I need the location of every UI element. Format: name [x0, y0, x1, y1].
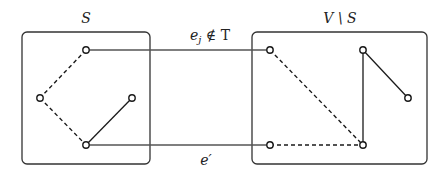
- node-s4: [83, 142, 89, 148]
- edge-label-e-prime: e′: [200, 152, 211, 168]
- diagram-canvas: S V \ S ej ∉ T e′: [0, 0, 448, 173]
- node-v1: [267, 47, 273, 53]
- node-s1: [83, 47, 89, 53]
- set-label-v-minus-s: V \ S: [323, 10, 356, 26]
- nodes-layer: [37, 47, 411, 148]
- edges-layer: [40, 50, 408, 145]
- set-label-s: S: [81, 10, 91, 26]
- node-v3: [405, 95, 411, 101]
- edge-s2-s4: [40, 98, 86, 145]
- node-v5: [360, 142, 366, 148]
- edge-s4-s3: [86, 98, 132, 145]
- node-v4: [267, 142, 273, 148]
- node-s3: [129, 95, 135, 101]
- edge-label-ej: ej ∉ T: [190, 27, 230, 46]
- node-s2: [37, 95, 43, 101]
- set-box-v-minus-s: [252, 32, 427, 164]
- edge-v2-v3: [363, 50, 408, 98]
- node-v2: [360, 47, 366, 53]
- edge-s1-s2: [40, 50, 86, 98]
- edge-label-ej-rel: ∉ T: [201, 27, 230, 43]
- edge-v1-v5: [270, 50, 363, 145]
